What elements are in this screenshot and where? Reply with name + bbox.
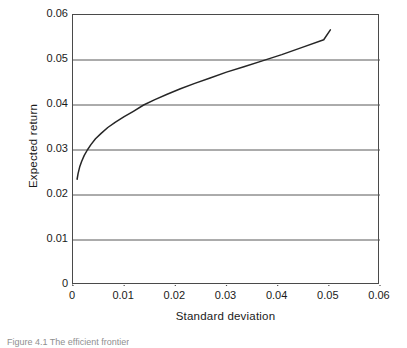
chart-figure: Expected return 00.010.020.030.040.050.0… (0, 0, 407, 348)
x-tick-label: 0 (48, 289, 96, 301)
chart-canvas (72, 14, 381, 286)
y-tick-label: 0.04 (34, 98, 68, 109)
x-tick-label: 0.02 (150, 289, 198, 301)
x-tick-label: 0.03 (202, 289, 250, 301)
y-tick-label: 0.02 (34, 188, 68, 199)
x-axis-tick-labels: 00.010.020.030.040.050.06 (0, 289, 407, 305)
y-tick-label: 0.03 (34, 143, 68, 154)
figure-caption: Figure 4.1 The efficient frontier (7, 337, 129, 348)
x-tick-label: 0.05 (304, 289, 352, 301)
plot-area (72, 14, 379, 284)
x-tick-label: 0.06 (355, 289, 403, 301)
y-tick-label: 0.05 (34, 53, 68, 64)
y-tick-label: 0 (34, 278, 68, 289)
y-tick-label: 0.06 (34, 8, 68, 19)
gridlines (72, 15, 380, 286)
x-tick-label: 0.01 (99, 289, 147, 301)
y-tick-label: 0.01 (34, 233, 68, 244)
x-tick-label: 0.04 (253, 289, 301, 301)
x-axis-title: Standard deviation (72, 310, 379, 322)
